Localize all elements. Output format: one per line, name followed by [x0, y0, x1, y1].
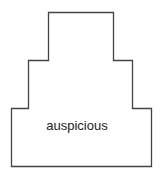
shape-label: auspicious — [0, 118, 159, 133]
stepped-shape — [0, 0, 164, 180]
